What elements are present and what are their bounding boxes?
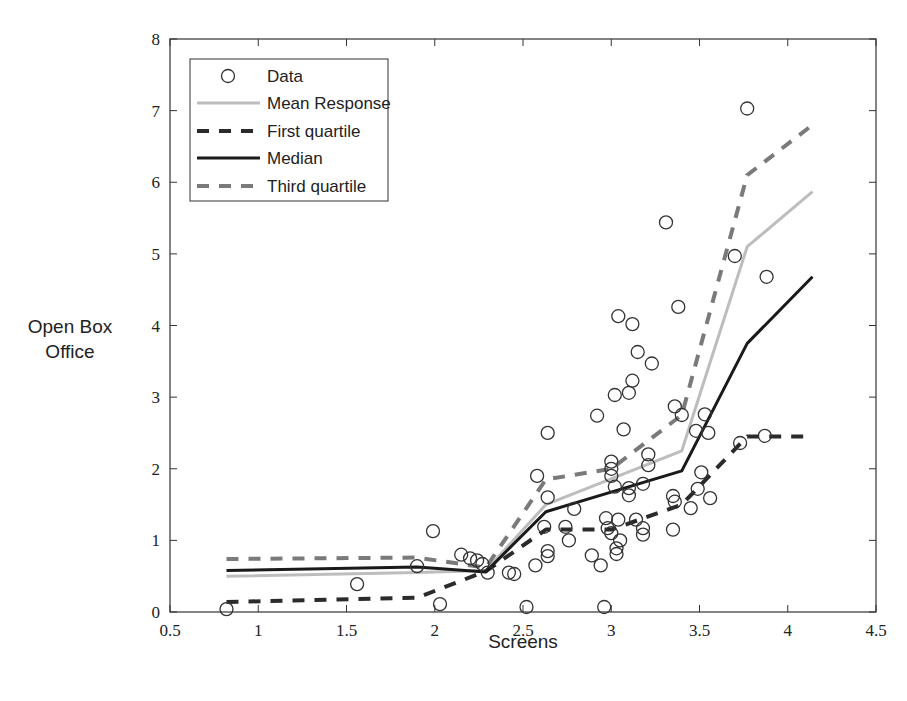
chart-canvas: 0.511.522.533.544.5 012345678 Screens Op… (0, 0, 907, 701)
data-point (605, 455, 618, 468)
x-tick-label: 0.5 (159, 621, 180, 640)
legend-label-mean-response: Mean Response (267, 94, 391, 113)
legend-label-data: Data (267, 67, 303, 86)
data-point (690, 424, 703, 437)
data-point (434, 598, 447, 611)
data-point (728, 250, 741, 263)
data-point (622, 386, 635, 399)
data-point (668, 400, 681, 413)
data-point (612, 310, 625, 323)
legend-label-median: Median (267, 149, 323, 168)
x-tick-label: 1 (254, 621, 263, 640)
x-tick-label: 4.5 (865, 621, 886, 640)
data-point (541, 426, 554, 439)
data-point (734, 437, 747, 450)
data-point (695, 466, 708, 479)
y-tick-label: 7 (152, 102, 161, 121)
data-point (427, 525, 440, 538)
x-tick-label: 3 (607, 621, 616, 640)
data-point (531, 469, 544, 482)
data-point (622, 489, 635, 502)
data-point (741, 102, 754, 115)
data-point (614, 534, 627, 547)
data-point (591, 409, 604, 422)
y-axis-label-line2: Office (45, 341, 94, 362)
data-point (610, 542, 623, 555)
data-point (684, 502, 697, 515)
y-tick-labels: 012345678 (152, 30, 161, 622)
y-tick-label: 3 (152, 388, 161, 407)
y-tick-label: 8 (152, 30, 161, 49)
y-tick-label: 2 (152, 460, 161, 479)
data-point (675, 409, 688, 422)
data-point (626, 374, 639, 387)
y-tick-label: 4 (152, 317, 161, 336)
legend-label-first-quartile: First quartile (267, 122, 361, 141)
y-tick-label: 1 (152, 531, 161, 550)
x-tick-label: 2 (431, 621, 440, 640)
y-tick-label: 5 (152, 245, 161, 264)
x-tick-label: 3.5 (689, 621, 710, 640)
x-tick-label: 1.5 (336, 621, 357, 640)
data-point (612, 513, 625, 526)
data-point (667, 523, 680, 536)
data-point (562, 534, 575, 547)
data-point (220, 603, 233, 616)
y-tick-label: 6 (152, 173, 161, 192)
data-point (631, 346, 644, 359)
y-tick-label: 0 (152, 603, 161, 622)
data-point (610, 548, 623, 561)
data-point (351, 578, 364, 591)
data-point (660, 216, 673, 229)
data-point (617, 423, 630, 436)
data-point (691, 482, 704, 495)
data-point (672, 300, 685, 313)
data-point (529, 559, 542, 572)
legend: Data Mean Response First quartile Median… (190, 59, 391, 201)
data-point (455, 548, 468, 561)
data-point (608, 389, 621, 402)
data-point (594, 559, 607, 572)
data-point (541, 491, 554, 504)
data-point (760, 270, 773, 283)
data-point (702, 426, 715, 439)
x-axis-label: Screens (488, 631, 558, 652)
data-point (704, 492, 717, 505)
data-point (645, 357, 658, 370)
data-point (626, 318, 639, 331)
y-axis-label-line1: Open Box (28, 316, 113, 337)
legend-label-third-quartile: Third quartile (267, 177, 366, 196)
x-tick-label: 4 (784, 621, 793, 640)
